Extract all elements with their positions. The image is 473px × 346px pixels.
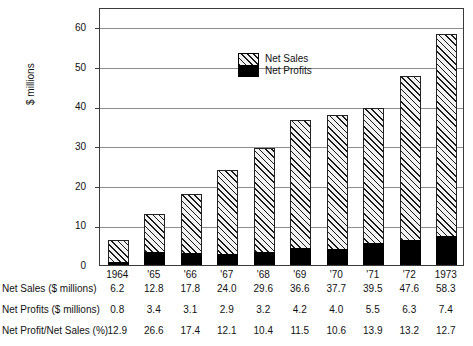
table-cell: 3.1	[172, 304, 209, 315]
table-cell: 12.9	[99, 325, 136, 336]
legend-swatch-net-sales	[238, 53, 259, 65]
bar-segment-net-sales	[217, 170, 238, 265]
table-cell: 12.8	[136, 283, 173, 294]
y-tick-label-40: 40	[75, 102, 86, 112]
legend-swatches	[238, 53, 259, 77]
bar-column	[327, 115, 348, 265]
legend-swatch-net-profits	[238, 65, 259, 77]
table-row-label: Net Profit/Net Sales (%)	[2, 325, 108, 336]
table-cell: 4.2	[282, 304, 319, 315]
plot-frame: Net Sales Net Profits	[99, 8, 464, 266]
chart-legend: Net Sales Net Profits	[238, 53, 312, 77]
table-cell: 11.5	[282, 325, 319, 336]
y-tick-label-20: 20	[75, 182, 86, 192]
bar-segment-net-profits	[290, 248, 311, 265]
bar-column	[290, 120, 311, 265]
x-axis-tick-labels: 1964'65'66'67'68'69'70'71'721973	[0, 269, 473, 282]
x-tick-label: '67	[209, 269, 246, 280]
y-tick-label-10: 10	[75, 221, 86, 231]
x-tick-label: '69	[282, 269, 319, 280]
bar-column	[144, 214, 165, 265]
table-cell: 10.4	[245, 325, 282, 336]
bar-column	[217, 170, 238, 265]
x-tick-label: '70	[318, 269, 355, 280]
table-cell: 37.7	[318, 283, 355, 294]
x-tick-label: 1964	[99, 269, 136, 280]
data-table: Net Sales ($ millions)6.212.817.824.029.…	[0, 283, 473, 346]
table-cell: 4.0	[318, 304, 355, 315]
table-cell: 12.7	[428, 325, 465, 336]
table-cell: 13.2	[391, 325, 428, 336]
bar-segment-net-profits	[144, 252, 165, 265]
table-cell: 24.0	[209, 283, 246, 294]
table-row: Net Profit/Net Sales (%)12.926.617.412.1…	[0, 325, 473, 346]
table-row: Net Sales ($ millions)6.212.817.824.029.…	[0, 283, 473, 304]
table-cell: 2.9	[209, 304, 246, 315]
bar-segment-net-profits	[217, 254, 238, 266]
bar-column	[436, 34, 457, 265]
table-cell: 0.8	[99, 304, 136, 315]
table-cell: 3.2	[245, 304, 282, 315]
x-tick-label: '72	[391, 269, 428, 280]
bar-segment-net-sales	[290, 120, 311, 265]
bar-segment-net-sales	[363, 108, 384, 265]
table-cell: 13.9	[355, 325, 392, 336]
x-tick-label: '71	[355, 269, 392, 280]
bar-segment-net-sales	[400, 76, 421, 265]
x-tick-label: '66	[172, 269, 209, 280]
x-tick-label: 1973	[428, 269, 465, 280]
y-tick-label-60: 60	[75, 23, 86, 33]
y-tick-label-50: 50	[75, 63, 86, 73]
table-cell: 6.2	[99, 283, 136, 294]
table-cell: 5.5	[355, 304, 392, 315]
table-cell: 10.6	[318, 325, 355, 336]
legend-label-net-sales: Net Sales	[265, 53, 312, 65]
bar-column	[254, 148, 275, 265]
bar-segment-net-profits	[108, 262, 129, 265]
y-axis-tick-labels: 0102030405060	[0, 0, 95, 272]
y-tick-label-30: 30	[75, 142, 86, 152]
table-cell: 17.8	[172, 283, 209, 294]
table-cell: 6.3	[391, 304, 428, 315]
legend-label-net-profits: Net Profits	[265, 65, 312, 77]
x-tick-label: '68	[245, 269, 282, 280]
table-row-label: Net Sales ($ millions)	[2, 283, 96, 294]
table-cell: 29.6	[245, 283, 282, 294]
table-cell: 26.6	[136, 325, 173, 336]
bar-segment-net-profits	[363, 243, 384, 265]
bar-segment-net-profits	[254, 252, 275, 265]
table-row: Net Profits ($ millions)0.83.43.12.93.24…	[0, 304, 473, 325]
bars-layer	[100, 9, 463, 265]
table-row-label: Net Profits ($ millions)	[2, 304, 100, 315]
bar-segment-net-profits	[436, 236, 457, 265]
chart-container: $ millions 0102030405060 Net Sales Net P…	[0, 0, 473, 272]
table-cell: 36.6	[282, 283, 319, 294]
table-cell: 17.4	[172, 325, 209, 336]
x-tick-label: '65	[136, 269, 173, 280]
bar-segment-net-sales	[436, 34, 457, 265]
bar-segment-net-profits	[327, 249, 348, 265]
table-cell: 3.4	[136, 304, 173, 315]
bar-column	[363, 108, 384, 265]
table-cell: 39.5	[355, 283, 392, 294]
bar-segment-net-sales	[327, 115, 348, 265]
bar-column	[181, 194, 202, 265]
table-cell: 47.6	[391, 283, 428, 294]
legend-labels: Net Sales Net Profits	[265, 53, 312, 77]
bar-segment-net-sales	[254, 148, 275, 265]
table-cell: 12.1	[209, 325, 246, 336]
table-cell: 58.3	[428, 283, 465, 294]
bar-column	[108, 240, 129, 265]
bar-column	[400, 76, 421, 265]
bar-segment-net-profits	[400, 240, 421, 265]
bar-segment-net-profits	[181, 253, 202, 265]
table-cell: 7.4	[428, 304, 465, 315]
